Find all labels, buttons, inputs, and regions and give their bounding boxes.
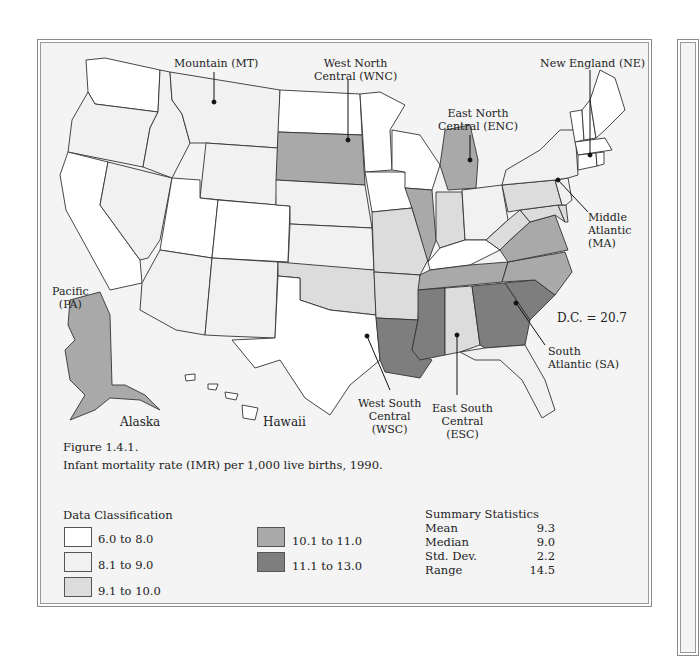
figure-caption: Infant mortality rate (IMR) per 1,000 li…: [63, 458, 383, 472]
summary-title: Summary Statistics: [425, 507, 555, 521]
label-ma-line3: (MA): [588, 237, 631, 250]
state-newyork: [502, 130, 578, 185]
label-alaska: Alaska: [120, 416, 160, 429]
stat-row: Range14.5: [425, 563, 555, 577]
label-pa-line2: (PA): [52, 298, 89, 311]
state-arizona: [140, 250, 212, 335]
state-maine: [590, 70, 625, 138]
label-wsc-line2: Central: [358, 410, 421, 423]
label-wnc-line2: Central (WNC): [314, 70, 397, 83]
state-indiana: [436, 192, 465, 248]
state-newmexico: [205, 258, 278, 338]
state-northdakota: [278, 90, 362, 135]
state-arkansas: [374, 272, 420, 320]
figure-number: Figure 1.4.1.: [63, 440, 138, 454]
legend-label-3: 9.1 to 10.0: [98, 584, 161, 598]
state-nebraska: [276, 180, 372, 228]
label-esc: East SouthCentral(ESC): [432, 402, 493, 441]
legend-swatch-2: [64, 552, 92, 572]
stat-key: Mean: [425, 521, 515, 535]
stat-key: Median: [425, 535, 515, 549]
label-sa: SouthAtlantic (SA): [548, 345, 619, 371]
label-sa-line1: South: [548, 345, 619, 358]
state-michigan: [440, 125, 478, 190]
label-esc-line3: (ESC): [432, 428, 493, 441]
state-rhodeisland: [596, 152, 604, 166]
state-southdakota: [276, 132, 365, 185]
legend-swatch-4: [257, 527, 285, 547]
state-colorado: [212, 200, 290, 262]
label-esc-line1: East South: [432, 402, 493, 415]
label-ma: MiddleAtlantic(MA): [588, 211, 631, 250]
stat-value: 9.0: [515, 535, 555, 549]
legend-title: Data Classification: [63, 508, 173, 522]
stat-key: Std. Dev.: [425, 549, 515, 563]
state-connecticut: [578, 153, 597, 170]
label-enc: East NorthCentral (ENC): [438, 107, 518, 133]
state-wyoming: [200, 143, 278, 205]
label-ne: New England (NE): [540, 57, 645, 70]
stat-value: 2.2: [515, 549, 555, 563]
label-pa-line1: Pacific: [52, 285, 89, 298]
legend-label-4: 10.1 to 11.0: [292, 534, 362, 548]
stat-row: Mean9.3: [425, 521, 555, 535]
summary-statistics: Summary Statistics Mean9.3 Median9.0 Std…: [425, 507, 555, 577]
label-ma-line2: Atlantic: [588, 224, 631, 237]
label-wnc: West NorthCentral (WNC): [314, 57, 397, 83]
legend-label-2: 8.1 to 9.0: [98, 558, 153, 572]
label-ma-line1: Middle: [588, 211, 631, 224]
label-wsc: West SouthCentral(WSC): [358, 397, 421, 436]
stat-key: Range: [425, 563, 515, 577]
label-pacific: Pacific(PA): [52, 285, 89, 311]
label-esc-line2: Central: [432, 415, 493, 428]
label-mountain: Mountain (MT): [174, 57, 258, 70]
legend-label-1: 6.0 to 8.0: [98, 532, 153, 546]
label-dc: D.C. = 20.7: [557, 312, 627, 325]
label-hawaii: Hawaii: [263, 416, 306, 429]
label-wsc-line3: (WSC): [358, 423, 421, 436]
state-hawaii: [185, 374, 258, 420]
legend-swatch-1: [64, 527, 92, 547]
label-enc-line1: East North: [438, 107, 518, 120]
stat-row: Median9.0: [425, 535, 555, 549]
label-enc-line2: Central (ENC): [438, 120, 518, 133]
stat-value: 14.5: [515, 563, 555, 577]
label-sa-line2: Atlantic (SA): [548, 358, 619, 371]
legend-label-5: 11.1 to 13.0: [292, 559, 362, 573]
legend-swatch-3: [64, 577, 92, 597]
legend-swatch-5: [257, 552, 285, 572]
state-kansas: [288, 224, 374, 270]
stat-row: Std. Dev.2.2: [425, 549, 555, 563]
label-wsc-line1: West South: [358, 397, 421, 410]
label-wnc-line1: West North: [314, 57, 397, 70]
stat-value: 9.3: [515, 521, 555, 535]
